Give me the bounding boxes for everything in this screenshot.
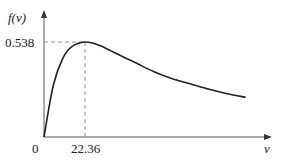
x-axis-arrow-icon <box>264 134 272 140</box>
chart-svg: f(v) 0.538 0 22.36 v <box>0 0 284 164</box>
x-axis-label: v <box>264 141 270 156</box>
y-axis-arrow-icon <box>41 10 47 18</box>
distribution-curve <box>44 42 246 137</box>
chart: f(v) 0.538 0 22.36 v <box>0 0 284 164</box>
origin-label: 0 <box>32 141 39 156</box>
peak-y-label: 0.538 <box>5 35 34 50</box>
peak-x-label: 22.36 <box>71 141 101 156</box>
y-axis-label: f(v) <box>8 10 26 25</box>
